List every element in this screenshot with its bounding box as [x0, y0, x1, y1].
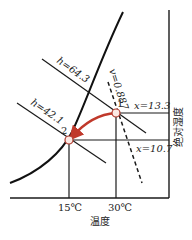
- state-point-2: [65, 136, 73, 144]
- x-tick-30: 30℃: [108, 202, 132, 213]
- x-axis-label: 温度: [90, 215, 110, 227]
- saturation-curve: [10, 12, 123, 183]
- enthalpy-low-label: h=42.1: [29, 97, 66, 127]
- point-1-label: 1: [117, 98, 123, 109]
- psychrometric-diagram: h=64.3 h=42.1 v=0.887 x=13.3 x=10.7 1 2 …: [0, 0, 192, 240]
- humidity-low-label: x=10.7: [136, 143, 173, 154]
- enthalpy-high-label: h=64.3: [55, 55, 92, 85]
- point-2-label: 2: [61, 125, 67, 136]
- humidity-high-label: x=13.3: [134, 100, 170, 111]
- state-point-1: [112, 109, 120, 117]
- y-axis-label: 绝对湿度: [172, 107, 184, 147]
- x-tick-15: 15℃: [58, 202, 82, 213]
